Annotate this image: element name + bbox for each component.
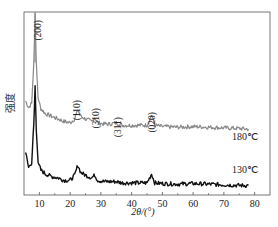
x-tick-label: 60 [188,198,198,209]
xrd-chart: 1020304050607080 (200)(110)(310)(311)(02… [0,0,278,227]
peak-annotation: (110) [72,100,83,120]
peak-annotation: (311) [113,117,124,137]
peak-annotation: (310) [91,108,102,129]
x-tick-label: 80 [250,198,260,209]
series-line-1 [26,86,249,188]
x-tick-label: 10 [34,198,44,209]
series-group [26,12,249,187]
series-label-1: 130℃ [232,164,258,175]
peak-annotation: (020) [147,112,158,133]
x-tick-label: 50 [157,198,167,209]
peak-annotation: (200) [33,20,44,41]
series-label-0: 180℃ [232,131,258,142]
x-tick-label: 70 [219,198,229,209]
peak-annotations: (200)(110)(310)(311)(020) [33,20,158,137]
y-axis-label: 强度 [4,93,16,113]
series-labels: 180℃130℃ [232,131,258,175]
x-tick-label: 30 [96,198,106,209]
x-axis-label: 2θ/(°) [131,206,155,218]
x-tick-label: 20 [65,198,75,209]
series-line-0 [26,14,249,131]
